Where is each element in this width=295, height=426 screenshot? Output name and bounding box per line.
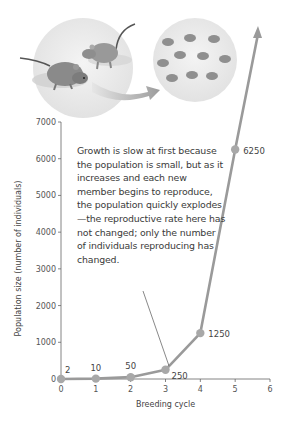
data-point <box>92 374 100 382</box>
y-tick-label: 7000 <box>36 118 56 127</box>
data-label: 10 <box>90 363 101 373</box>
data-label: 250 <box>172 371 188 381</box>
mice-illustration <box>20 18 237 118</box>
data-label: 50 <box>125 361 136 371</box>
mouse-icon <box>219 55 231 63</box>
x-tick-label: 5 <box>233 385 238 394</box>
x-tick-label: 1 <box>93 385 98 394</box>
mouse-icon <box>162 38 174 46</box>
data-point <box>196 329 204 337</box>
mouse-icon <box>184 34 196 42</box>
mouse-icon <box>174 51 186 59</box>
y-tick-label: 0 <box>51 375 56 384</box>
line-arrowhead-icon <box>253 26 262 38</box>
y-tick-label: 4000 <box>36 228 56 237</box>
x-tick-label: 6 <box>267 385 272 394</box>
data-point <box>57 375 65 383</box>
x-tick-label: 0 <box>58 385 63 394</box>
mouse-icon <box>208 35 220 43</box>
x-tick-label: 2 <box>128 385 133 394</box>
y-tick-label: 1000 <box>36 338 56 347</box>
data-point <box>161 366 169 374</box>
y-axis-title: Population size (number of individuals) <box>14 181 23 337</box>
parent-mice-circle <box>33 18 133 118</box>
mouse-icon <box>157 59 169 67</box>
mouse-icon <box>186 71 198 79</box>
y-tick-label: 6000 <box>36 155 56 164</box>
x-tick-label: 3 <box>163 385 168 394</box>
mouse-icon <box>166 74 178 82</box>
data-label: 6250 <box>243 146 265 156</box>
data-point <box>231 145 239 153</box>
x-axis-title: Breeding cycle <box>136 400 195 409</box>
data-label: 1250 <box>208 329 230 339</box>
annotation-pointer <box>143 291 169 366</box>
y-tick-label: 3000 <box>36 265 56 274</box>
growth-annotation: Growth is slow at first because the popu… <box>77 144 227 266</box>
mouse-icon <box>206 72 218 80</box>
mouse-icon <box>197 52 209 60</box>
data-label: 2 <box>65 365 70 375</box>
data-point <box>126 373 134 381</box>
y-tick-label: 2000 <box>36 302 56 311</box>
y-tick-label: 5000 <box>36 191 56 200</box>
x-tick-label: 4 <box>198 385 203 394</box>
